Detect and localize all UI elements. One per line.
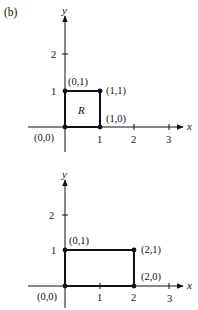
bottom-label-2-1: (2,1)	[141, 244, 162, 256]
top-y-axis-label: y	[61, 4, 67, 16]
bottom-y-tick-2: 2	[49, 210, 54, 221]
figure-b: (b) y x 2 1 1 2 3 R (0,0) (1,0) (1,1) (0…	[0, 0, 198, 310]
top-y-tick-2: 2	[51, 49, 56, 60]
bottom-x-tick-3: 3	[167, 293, 172, 304]
top-x-tick-1: 1	[97, 134, 102, 145]
bottom-label-0-0: (0,0)	[37, 291, 58, 303]
top-label-0-0: (0,0)	[34, 132, 55, 144]
top-point-1-1	[98, 89, 103, 94]
region-r-label: R	[77, 104, 85, 116]
bottom-x-tick-1: 1	[97, 292, 102, 303]
top-point-0-1	[63, 89, 68, 94]
top-label-1-1: (1,1)	[106, 85, 127, 97]
top-plot: y x 2 1 1 2 3 R (0,0) (1,0) (1,1) (0,1)	[28, 4, 192, 152]
bottom-point-2-0	[132, 284, 137, 289]
bottom-label-2-0: (2,0)	[141, 271, 162, 283]
bottom-point-2-1	[132, 248, 137, 253]
bottom-x-tick-2: 2	[131, 292, 136, 303]
top-label-1-0: (1,0)	[106, 113, 127, 125]
bottom-point-0-0	[63, 284, 68, 289]
top-x-axis-label: x	[186, 120, 192, 132]
top-point-0-0	[63, 125, 68, 130]
top-label-0-1: (0,1)	[68, 76, 89, 88]
bottom-plot: y x 2 1 1 2 3 (0,0) (2,0) (2,1) (0,1)	[28, 168, 192, 308]
top-x-tick-3: 3	[166, 134, 171, 145]
bottom-y-tick-1: 1	[51, 245, 56, 256]
bottom-x-axis-label: x	[186, 279, 192, 291]
top-x-tick-2: 2	[131, 134, 136, 145]
image-rectangle	[65, 250, 134, 286]
top-y-tick-1: 1	[51, 86, 56, 97]
bottom-y-axis-label: y	[61, 168, 67, 180]
bottom-label-0-1: (0,1)	[69, 235, 90, 247]
panel-label: (b)	[4, 6, 18, 19]
bottom-point-0-1	[63, 248, 68, 253]
top-point-1-0	[98, 125, 103, 130]
